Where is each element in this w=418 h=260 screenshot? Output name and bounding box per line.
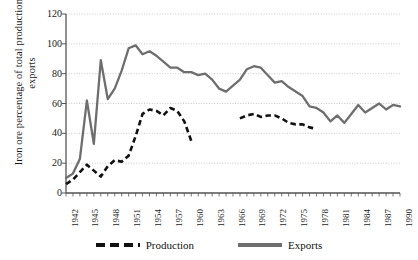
x-tick-label: 1990 [404,209,414,227]
y-tick-label: 20 [34,157,62,168]
series-exports [66,45,400,178]
x-tick-label: 1963 [216,209,226,227]
plot-area [66,14,400,193]
legend-label-exports: Exports [288,239,322,251]
chart-legend: Production Exports [0,234,418,256]
series-production [66,108,317,184]
legend-label-production: Production [146,239,194,251]
legend-swatch-exports-icon [238,243,282,247]
x-tick-label: 1966 [237,209,247,227]
x-tick-label: 1972 [278,209,288,227]
y-tick-label: 120 [34,8,62,19]
y-tick-label: 80 [34,68,62,79]
x-tick-label: 1954 [153,209,163,227]
production-line-segment-2 [240,114,317,129]
x-tick-label: 1969 [257,209,267,227]
chart-figure: Iron ore percentage of total production … [0,0,418,260]
x-tick-label: 1981 [341,209,351,227]
x-tick-label: 1975 [299,209,309,227]
y-tick-label: 100 [34,38,62,49]
y-tick-label: 40 [34,127,62,138]
x-tick-label: 1945 [90,209,100,227]
x-axis-tick-labels: 1942194519481951195419571960196319661969… [66,195,406,233]
x-axis-ticks [62,14,400,197]
y-tick-label: 0 [34,187,62,198]
x-tick-label: 1960 [195,209,205,227]
x-tick-label: 1951 [132,209,142,227]
legend-item-production: Production [96,239,194,251]
y-tick-label: 60 [34,98,62,109]
gridlines [66,14,400,193]
legend-item-exports: Exports [238,239,322,251]
exports-line [66,45,400,178]
x-tick-label: 1942 [70,209,80,227]
y-axis-tick-labels: 020406080100120 [30,0,62,193]
x-tick-label: 1984 [362,209,372,227]
x-tick-label: 1948 [111,209,121,227]
plot-svg [66,14,400,193]
x-tick-label: 1957 [174,209,184,227]
legend-swatch-production-icon [96,243,140,247]
x-tick-label: 1978 [320,209,330,227]
x-tick-label: 1987 [383,209,393,227]
